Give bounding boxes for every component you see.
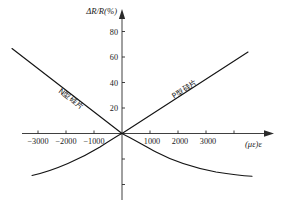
x-tick-label--1000: −1000	[84, 137, 105, 146]
curve-label-n-type: N型硅片	[57, 86, 87, 112]
y-tick-label-80: 80	[110, 28, 118, 37]
x-tick-label--2000: −2000	[56, 137, 77, 146]
x-tick-label-1000: 1000	[144, 137, 160, 146]
curve-label-p-type: P型硅片	[170, 77, 199, 101]
y-axis-title: ΔR/R(%)	[85, 6, 117, 16]
y-axis-arrowhead	[119, 9, 125, 19]
x-axis-arrowhead	[264, 130, 274, 136]
curve-label-n-type-group: N型硅片	[57, 86, 87, 112]
x-axis-title: (με)ε	[245, 139, 262, 149]
axes-group	[22, 9, 274, 200]
curve-label-p-type-group: P型硅片	[170, 77, 199, 101]
y-tick-labels: 80 60 40 20	[110, 28, 118, 114]
y-tick-label-40: 40	[110, 79, 118, 88]
chart-figure: −3000 −2000 −1000 1000 2000 3000 80 60 4…	[0, 0, 283, 207]
chart-plot-area: −3000 −2000 −1000 1000 2000 3000 80 60 4…	[0, 0, 283, 207]
x-tick-label--3000: −3000	[28, 137, 49, 146]
x-tick-label-3000: 3000	[200, 137, 216, 146]
y-tick-label-20: 20	[110, 104, 118, 113]
y-tick-label-60: 60	[110, 53, 118, 62]
x-tick-label-2000: 2000	[172, 137, 188, 146]
